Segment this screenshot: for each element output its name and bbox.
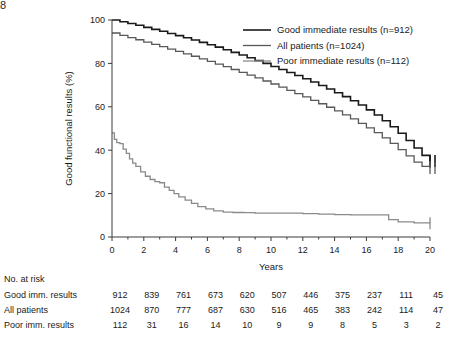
risk-cell-0-1: 839 (144, 290, 159, 300)
risk-cell-1-8: 242 (367, 305, 382, 315)
risk-cell-1-1: 870 (144, 305, 159, 315)
curve-group (112, 20, 435, 229)
risk-cell-0-9: 111 (399, 290, 413, 300)
legend-label-1: All patients (n=1024) (277, 40, 364, 51)
risk-cell-2-4: 10 (242, 320, 252, 330)
risk-cell-2-6: 9 (308, 320, 313, 330)
x-tick-label-3: 6 (205, 245, 210, 255)
y-tick-label-0: 0 (100, 232, 105, 242)
risk-cell-1-3: 687 (208, 305, 223, 315)
x-tick-label-4: 8 (237, 245, 242, 255)
risk-cell-2-1: 31 (147, 320, 157, 330)
y-tick-label-2: 40 (95, 146, 105, 156)
x-tick-label-10: 20 (425, 245, 435, 255)
risk-cell-0-4: 620 (240, 290, 255, 300)
risk-table-group: No. at riskGood imm. results912839761673… (4, 274, 443, 330)
risk-cell-0-10: 45 (433, 290, 443, 300)
risk-cell-1-7: 383 (335, 305, 350, 315)
risk-cell-2-3: 14 (210, 320, 220, 330)
risk-cell-0-0: 912 (112, 290, 127, 300)
x-tick-label-2: 4 (173, 245, 178, 255)
curve-series-0 (112, 20, 430, 161)
risk-cell-2-5: 9 (276, 320, 281, 330)
risk-cell-0-5: 507 (271, 290, 286, 300)
x-tick-label-1: 2 (141, 245, 146, 255)
risk-cell-0-3: 673 (208, 290, 223, 300)
risk-cell-1-5: 516 (271, 305, 286, 315)
x-tick-label-5: 10 (266, 245, 276, 255)
chart-svg: 02040608010002468101214161820YearsGood f… (0, 0, 452, 345)
axes-group: 02040608010002468101214161820YearsGood f… (63, 15, 435, 272)
risk-cell-2-10: 2 (435, 320, 440, 330)
risk-cell-1-6: 465 (303, 305, 318, 315)
x-tick-label-6: 12 (298, 245, 308, 255)
survival-chart-figure: 02040608010002468101214161820YearsGood f… (0, 0, 452, 345)
risk-cell-1-0: 1024 (110, 305, 130, 315)
risk-row-label-1: All patients (4, 305, 49, 315)
risk-cell-1-9: 114 (399, 305, 413, 315)
legend-label-0: Good immediate results (n=912) (277, 24, 413, 35)
risk-cell-0-6: 446 (303, 290, 318, 300)
risk-row-label-2: Poor imm. results (4, 320, 75, 330)
x-tick-label-8: 16 (361, 245, 371, 255)
risk-cell-1-2: 777 (176, 305, 191, 315)
curve-series-1 (112, 33, 430, 168)
y-axis-label: Good functional results (%) (63, 71, 74, 186)
y-tick-label-3: 60 (95, 102, 105, 112)
legend-label-2: Poor immediate results (n=112) (277, 55, 409, 66)
y-tick-label-5: 100 (90, 15, 105, 25)
risk-table-header: No. at risk (4, 274, 45, 284)
risk-cell-0-7: 375 (335, 290, 350, 300)
risk-cell-2-2: 16 (179, 320, 189, 330)
y-tick-label-1: 20 (95, 189, 105, 199)
risk-cell-2-8: 5 (372, 320, 377, 330)
risk-cell-0-2: 761 (176, 290, 191, 300)
risk-cell-1-4: 630 (240, 305, 255, 315)
risk-cell-2-7: 8 (340, 320, 345, 330)
risk-row-label-0: Good imm. results (4, 290, 78, 300)
curve-series-2 (112, 133, 430, 223)
y-tick-label-4: 80 (95, 59, 105, 69)
risk-cell-0-8: 237 (367, 290, 382, 300)
risk-cell-1-10: 47 (433, 305, 443, 315)
x-tick-label-9: 18 (393, 245, 403, 255)
x-tick-label-7: 14 (330, 245, 340, 255)
risk-cell-2-9: 3 (404, 320, 409, 330)
legend-group: Good immediate results (n=912)All patien… (243, 24, 413, 66)
x-axis-label: Years (259, 261, 283, 272)
risk-cell-2-0: 112 (113, 320, 127, 330)
x-tick-label-0: 0 (109, 245, 114, 255)
